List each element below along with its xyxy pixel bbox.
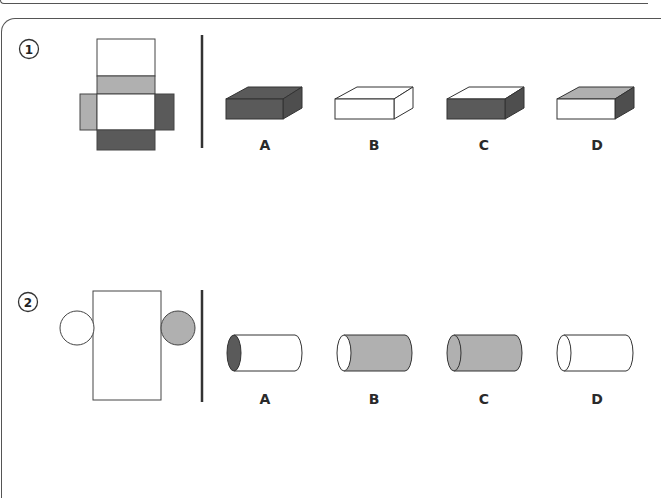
option-b-cylinder[interactable] — [337, 335, 412, 371]
box-net — [80, 39, 174, 150]
option-a-cuboid[interactable] — [226, 87, 302, 119]
option-c-cuboid[interactable] — [447, 87, 524, 119]
option-d-label[interactable]: D — [591, 391, 603, 407]
problem-number-badge: 1 — [20, 40, 39, 59]
problem-number: 2 — [24, 296, 32, 310]
option-b-cuboid[interactable] — [335, 87, 413, 119]
option-d-label[interactable]: D — [591, 137, 603, 153]
problem-2: 2 A B C D — [19, 290, 634, 407]
option-c-label[interactable]: C — [479, 391, 489, 407]
option-a-cylinder[interactable] — [227, 335, 302, 371]
option-a-label[interactable]: A — [260, 137, 271, 153]
problem-1: 1 — [20, 35, 635, 153]
option-d-cylinder[interactable] — [557, 335, 633, 371]
option-b-label[interactable]: B — [369, 391, 380, 407]
option-a-label[interactable]: A — [260, 391, 271, 407]
cylinder-net — [60, 291, 195, 400]
problem-number-badge: 2 — [19, 293, 38, 312]
option-c-label[interactable]: C — [479, 137, 489, 153]
option-c-cylinder[interactable] — [447, 335, 522, 371]
problem-number: 1 — [25, 43, 33, 57]
option-b-label[interactable]: B — [369, 137, 380, 153]
option-d-cuboid[interactable] — [557, 87, 634, 119]
